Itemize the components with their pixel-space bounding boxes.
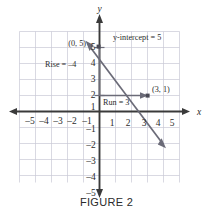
y-tick-4: 4 [91,58,96,68]
coordinate-plane-graph: y x –5 –4 –3 –2 –1 1 2 3 4 5 5 4 3 2 1 –… [0,0,213,217]
figure-caption: FIGURE 2 [0,196,213,208]
x-tick-labels-negative: –5 –4 –3 –2 –1 [24,116,92,126]
point-marker-0-5 [97,45,101,49]
x-axis-label: x [196,107,202,117]
y-axis-arrow-up [96,14,103,23]
x-tick--5: –5 [24,116,35,126]
y-tick--1: –1 [85,124,96,134]
y-tick-1: 1 [91,102,96,112]
x-axis-arrow-left [9,108,17,115]
x-tick-labels-positive: 1 2 3 4 5 [110,118,175,128]
y-tick--3: –3 [85,156,96,166]
x-tick-2: 2 [126,118,131,128]
x-tick--2: –2 [66,116,77,126]
point-label-3-1: (3, 1) [152,85,170,94]
y-intercept-label: y-intercept = 5 [113,33,161,42]
x-tick-1: 1 [110,118,115,128]
x-tick--4: –4 [38,116,49,126]
run-label: Run = 3 [103,98,129,107]
y-axis-label: y [96,4,102,14]
y-tick-5: 5 [91,42,96,52]
x-axis-arrow-right [182,108,190,115]
plotted-line [86,41,167,148]
y-tick-3: 3 [91,74,96,84]
y-tick--4: –4 [85,172,96,182]
x-tick-5: 5 [170,118,175,128]
y-tick-labels-negative: –1 –2 –3 –4 –5 [85,124,96,198]
point-marker-3-1 [146,94,150,98]
axes [9,14,190,198]
rise-run-guides [95,48,149,99]
y-tick--2: –2 [85,140,96,150]
point-label-0-5: (0, 5) [68,39,86,48]
y-tick-2: 2 [91,90,96,100]
x-tick--3: –3 [52,116,63,126]
figure-container: y x –5 –4 –3 –2 –1 1 2 3 4 5 5 4 3 2 1 –… [0,0,213,217]
rise-label: Rise = –4 [45,60,76,69]
x-tick-4: 4 [156,118,161,128]
x-tick-3: 3 [142,118,147,128]
